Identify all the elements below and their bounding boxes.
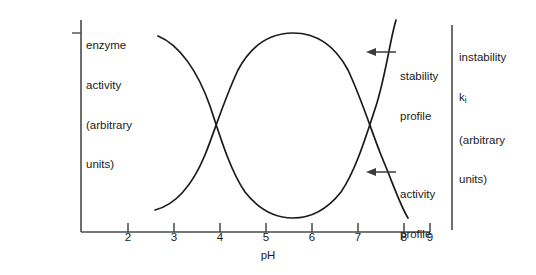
left-axis-title-line-2: activity	[86, 79, 148, 92]
right-axis-title-line-3: (arbitrary	[459, 134, 533, 147]
right-axis-title-line-1: instability	[459, 51, 533, 64]
right-axis-title-line-4: units)	[459, 173, 533, 186]
activity-profile-label-line-1: activity	[400, 188, 458, 201]
activity-annotation-arrow	[366, 168, 396, 176]
right-axis-title: instability ki (arbitrary units)	[459, 25, 533, 213]
x-axis-title: pH	[0, 249, 536, 262]
right-axis-symbol-line: ki	[459, 91, 533, 107]
x-tick-label-7: 7	[348, 231, 368, 244]
x-tick-label-9: 9	[420, 231, 440, 244]
left-axis-title-line-1: enzyme	[86, 39, 148, 52]
x-tick-label-3: 3	[164, 231, 184, 244]
left-axis-title-line-3: (arbitrary	[86, 119, 148, 132]
left-axis-title-line-4: units)	[86, 158, 148, 171]
stability-profile-label: stability profile	[400, 44, 458, 150]
stability-profile-label-line-1: stability	[400, 70, 458, 83]
x-tick-label-6: 6	[302, 231, 322, 244]
enzyme-ph-figure: enzyme activity (arbitrary units) instab…	[0, 0, 536, 275]
x-tick-label-4: 4	[210, 231, 230, 244]
stability-profile-curve	[158, 20, 396, 218]
x-tick-label-8: 8	[394, 231, 414, 244]
right-axis-symbol-subscript: i	[465, 95, 467, 105]
stability-profile-label-line-2: profile	[400, 110, 458, 123]
left-axis-title: enzyme activity (arbitrary units)	[86, 13, 148, 198]
x-tick-label-2: 2	[118, 231, 138, 244]
stability-annotation-arrow	[366, 48, 396, 56]
x-tick-label-5: 5	[256, 231, 276, 244]
